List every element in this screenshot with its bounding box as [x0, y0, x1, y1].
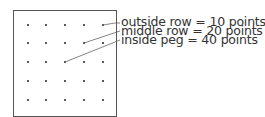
- peg: [83, 61, 85, 63]
- leader-lines: [65, 23, 120, 62]
- leader-line-middle: [84, 31, 120, 43]
- peg: [27, 61, 29, 63]
- peg: [102, 80, 104, 82]
- peg: [27, 24, 29, 26]
- peg-grid: [27, 24, 104, 101]
- peg: [64, 24, 66, 26]
- peg: [83, 24, 85, 26]
- peg: [45, 61, 47, 63]
- peg: [64, 80, 66, 82]
- peg: [64, 42, 66, 44]
- label-inside-peg: inside peg = 40 points: [121, 33, 258, 47]
- peg: [45, 80, 47, 82]
- peg: [83, 80, 85, 82]
- peg: [102, 61, 104, 63]
- peg: [64, 99, 66, 101]
- peg: [27, 99, 29, 101]
- peg: [102, 42, 104, 44]
- peg: [27, 42, 29, 44]
- peg: [27, 80, 29, 82]
- leader-line-outside: [103, 23, 120, 25]
- peg: [45, 42, 47, 44]
- leader-line-inside: [65, 40, 120, 62]
- peg: [45, 99, 47, 101]
- peg: [45, 24, 47, 26]
- peg: [102, 99, 104, 101]
- peg: [83, 99, 85, 101]
